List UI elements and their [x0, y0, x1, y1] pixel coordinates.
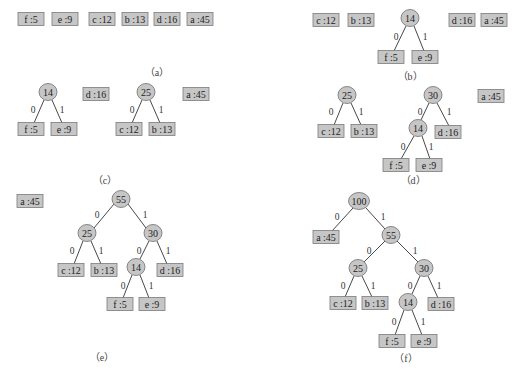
panel-caption: （e）	[90, 352, 114, 363]
edge-bit-label: 1	[413, 246, 418, 256]
leaf-node: e :9	[51, 123, 77, 136]
leaf-node: e :9	[412, 51, 438, 64]
edge-bit-label: 1	[371, 281, 376, 291]
leaf-label: c :12	[321, 126, 341, 137]
leaf-node: f :5	[18, 13, 44, 26]
internal-node-weight: 14	[403, 297, 413, 308]
tree-edge	[345, 276, 354, 297]
edge-bit-label: 1	[159, 105, 164, 115]
leaf-node: a :45	[187, 13, 213, 26]
panel-caption: （c）	[93, 175, 117, 186]
tree-edge	[34, 100, 44, 123]
panel-f: 010101010110055253014a :45c :12b :13d :1…	[313, 193, 454, 364]
internal-node: 14	[399, 294, 417, 311]
leaf-label: c :12	[333, 298, 353, 309]
leaf-label: b :13	[94, 265, 114, 276]
internal-node: 25	[349, 260, 367, 277]
edge-bit-label: 1	[381, 212, 386, 222]
edge-bit-label: 0	[70, 246, 75, 256]
leaf-node: a :45	[481, 14, 507, 27]
leaf-label: a :45	[316, 232, 336, 243]
leaf-label: c :12	[119, 124, 139, 135]
internal-node: 30	[144, 225, 162, 242]
leaf-node: d :16	[83, 88, 109, 101]
internal-node-weight: 30	[419, 263, 429, 274]
edge-bit-label: 0	[418, 107, 423, 117]
edge-bit-label: 1	[149, 281, 154, 291]
leaf-node: c :12	[116, 123, 142, 136]
internal-node: 14	[409, 120, 427, 137]
edge-bit-label: 1	[359, 107, 364, 117]
edge-bit-label: 1	[437, 281, 442, 291]
internal-node: 25	[338, 87, 356, 104]
leaf-label: d :16	[438, 127, 458, 138]
leaf-label: b :13	[125, 14, 145, 25]
leaf-label: e :9	[418, 52, 433, 63]
leaf-label: a :45	[20, 196, 40, 207]
leaf-node: f :5	[18, 123, 44, 136]
internal-node-weight: 25	[342, 90, 352, 101]
leaf-node: a :45	[17, 195, 43, 208]
edge-bit-label: 1	[421, 317, 426, 327]
leaf-label: d :16	[86, 89, 106, 100]
leaf-label: e :9	[58, 14, 73, 25]
leaf-node: b :13	[122, 13, 148, 26]
leaf-node: e :9	[52, 13, 78, 26]
edge-bit-label: 0	[130, 105, 135, 115]
edge-bit-label: 0	[137, 246, 142, 256]
internal-node-weight: 14	[131, 262, 141, 273]
leaf-node: c :12	[58, 264, 84, 277]
internal-node: 14	[39, 84, 57, 101]
panel-caption: （a）	[145, 67, 169, 78]
panel-c: 01011425f :5e :9d :16c :12b :13a :45（c）	[18, 84, 209, 186]
internal-node: 30	[424, 87, 442, 104]
internal-node-weight: 30	[148, 228, 158, 239]
edge-bit-label: 0	[31, 105, 36, 115]
edge-bit-label: 0	[394, 32, 399, 42]
leaf-label: d :16	[160, 265, 180, 276]
leaf-node: a :45	[183, 88, 209, 101]
edge-bit-label: 1	[447, 107, 452, 117]
leaf-node: f :5	[383, 159, 409, 172]
leaf-label: e :9	[57, 124, 72, 135]
leaf-label: c :12	[316, 15, 336, 26]
leaf-node: d :16	[154, 13, 180, 26]
panel-a: f :5e :9c :12b :13d :16a :45（a）	[18, 13, 213, 78]
leaf-label: e :9	[145, 299, 160, 310]
tree-edge	[74, 241, 83, 264]
internal-node: 55	[112, 191, 130, 208]
leaf-node: e :9	[416, 159, 442, 172]
leaf-label: a :45	[190, 14, 210, 25]
leaf-label: f :5	[24, 14, 38, 25]
panel-e: 0101010155253014a :45c :12b :13d :16f :5…	[17, 191, 183, 363]
leaf-label: b :13	[365, 298, 385, 309]
internal-node-weight: 55	[116, 194, 126, 205]
leaf-node: d :16	[449, 14, 475, 27]
leaf-node: f :5	[379, 335, 405, 348]
internal-node-weight: 25	[353, 263, 363, 274]
leaf-label: c :12	[92, 14, 112, 25]
internal-node-weight: 25	[141, 87, 151, 98]
panel-caption: （d）	[401, 175, 426, 186]
internal-node-weight: 55	[386, 230, 396, 241]
leaf-node: d :16	[428, 298, 454, 311]
edge-bit-label: 1	[166, 246, 171, 256]
internal-node-weight: 100	[352, 196, 367, 207]
leaf-node: c :12	[313, 14, 339, 27]
internal-node: 55	[382, 227, 400, 244]
leaf-label: e :9	[422, 160, 437, 171]
leaf-label: c :12	[61, 265, 81, 276]
internal-node: 30	[415, 260, 433, 277]
leaf-label: f :5	[24, 124, 38, 135]
panel-b: 0114c :12b :13f :5e :9d :16a :45（b）	[313, 10, 507, 82]
edge-bit-label: 1	[60, 105, 65, 115]
leaf-node: b :13	[91, 264, 117, 277]
leaf-label: f :5	[389, 160, 403, 171]
edge-bit-label: 0	[121, 281, 126, 291]
edge-bit-label: 1	[423, 32, 428, 42]
huffman-figure: f :5e :9c :12b :13d :16a :45（a）0114c :12…	[0, 0, 517, 375]
leaf-label: d :16	[431, 299, 451, 310]
leaf-node: b :13	[348, 14, 374, 27]
tree-edge	[334, 103, 343, 125]
edge-bit-label: 0	[408, 281, 413, 291]
